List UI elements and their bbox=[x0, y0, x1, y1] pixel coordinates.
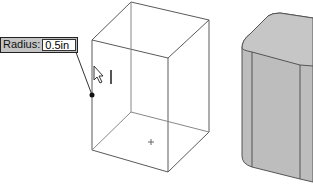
mouse-pointer-icon bbox=[94, 66, 103, 83]
center-marker-icon bbox=[148, 139, 154, 145]
radius-label: Radius: bbox=[1, 38, 42, 52]
filleted-solid bbox=[242, 13, 313, 182]
radius-input-tag: Radius: 0.5in bbox=[0, 37, 78, 53]
radius-input[interactable]: 0.5in bbox=[42, 39, 76, 51]
cad-viewport[interactable]: Radius: 0.5in bbox=[0, 0, 313, 194]
viewport-canvas[interactable] bbox=[0, 0, 313, 194]
leader-line bbox=[74, 47, 92, 95]
text-cursor-icon bbox=[110, 70, 112, 84]
wireframe-box bbox=[92, 2, 209, 172]
pick-point bbox=[90, 93, 95, 98]
